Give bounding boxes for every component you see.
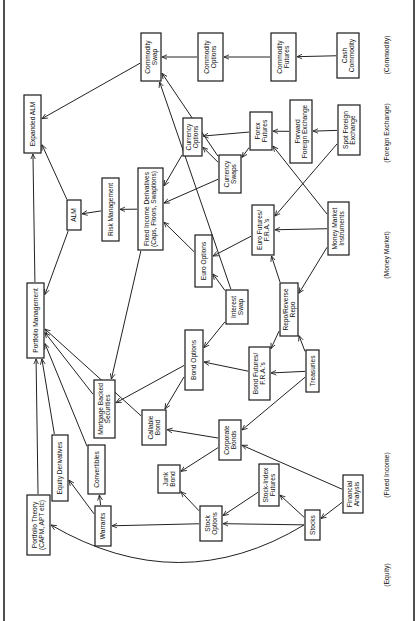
edge-money_market_instruments-to-euro_futures [275, 229, 327, 230]
edge-callable_bond-to-portfolio_management [45, 329, 141, 416]
svg-text:(Equity): (Equity) [383, 563, 391, 586]
node-risk-management: Risk Management [102, 178, 119, 241]
edge-warrants-to-convertibles [99, 495, 100, 505]
edge-stock_index_futures-to-stock_options [223, 492, 258, 515]
node-mortgage-backed: Mortgage BackedSecurities [94, 380, 115, 438]
node-money-market-instruments: Money MarketInstruments [328, 202, 349, 255]
edge-financial_analysis-to-stocks [321, 502, 342, 518]
edge-cash_commodity-to-commodity_futures [297, 56, 336, 57]
financial-instruments-diagram: Expanded ALMPortfolio ManagementPortfoli… [0, 0, 420, 621]
category-labels: (Equity)(Fixed Income)(Money Market)(For… [383, 36, 391, 587]
edge-bond_options-to-mortgage_backed [116, 365, 184, 402]
svg-text:Euro Options: Euro Options [200, 241, 208, 280]
edge-equity_derivatives-to-portfolio_management [42, 359, 54, 434]
edge-stocks-to-stock_index_futures [280, 495, 304, 517]
node-stock-options: StockOptions [200, 506, 222, 541]
edge-stock_options-to-warrants [112, 524, 199, 526]
svg-text:Treasuries: Treasuries [309, 355, 316, 387]
node-callable-bond: CallableBond [142, 410, 166, 445]
node-euro-options: Euro Options [195, 235, 212, 287]
node-treasuries: Treasuries [306, 350, 319, 392]
category-label-fixed-income: (Fixed Income) [383, 452, 391, 497]
edge-currency_options-to-fixed_income_derivatives [164, 155, 182, 186]
svg-text:(Commodity): (Commodity) [383, 36, 391, 75]
node-forward-fx: ForwardForeign Exchange [290, 100, 312, 163]
node-currency-options: CurrencyOptions [183, 118, 202, 156]
node-forex-futures: ForexFutures [250, 112, 272, 150]
edge-alm-to-portfolio_management [45, 231, 68, 294]
svg-text:(Money Market): (Money Market) [383, 231, 391, 279]
svg-text:Equity Derivatives: Equity Derivatives [56, 441, 64, 494]
svg-text:ALM: ALM [70, 208, 77, 222]
edge-alm-to-expanded_alm [42, 145, 67, 199]
node-expanded-alm: Expanded ALM [24, 95, 41, 153]
svg-text:JunkBond: JunkBond [162, 471, 176, 487]
node-repo: Repo/ReverseRepo [280, 283, 298, 336]
edge-spot_fx-to-forward_fx [313, 130, 337, 131]
svg-text:FinancialAnalysis: FinancialAnalysis [346, 480, 361, 507]
svg-text:Stocks: Stocks [309, 514, 316, 534]
svg-text:InterestSwap: InterestSwap [230, 296, 245, 318]
edge-money_market_instruments-to-repo [299, 247, 327, 293]
edge-corporate_bonds-to-callable_bond [167, 430, 218, 438]
svg-text:(Foreign Exchange): (Foreign Exchange) [383, 103, 391, 163]
category-label-money-market: (Money Market) [383, 231, 391, 279]
edge-currency_swaps-to-currency_options [203, 147, 218, 162]
edge-forex_futures-to-currency_swaps [242, 148, 249, 158]
svg-text:ForexFutures: ForexFutures [254, 119, 268, 142]
edge-treasuries-to-repo [299, 336, 305, 352]
edge-corporate_bonds-to-junk_bond [181, 448, 218, 472]
edge-interest_swap-to-bond_options [204, 322, 225, 348]
edge-stocks-to-stock_options [223, 524, 304, 525]
edge-portfolio_management-to-expanded_alm [33, 154, 35, 282]
edge-repo-to-euro_futures [272, 256, 281, 282]
edge-risk_management-to-alm [82, 211, 101, 214]
category-label-commodity: (Commodity) [383, 36, 391, 75]
category-label-equity: (Equity) [383, 563, 391, 586]
node-spot-fx: Spot ForeignExchange [338, 105, 360, 155]
node-bond-futures: Bond Futures/F.R.A.'s [249, 347, 270, 400]
edge-financial_analysis-to-corporate_bonds [242, 445, 342, 489]
edge-commodity_swap-to-expanded_alm [42, 63, 140, 118]
node-stocks: Stocks [305, 510, 320, 540]
nodes-layer: Expanded ALMPortfolio ManagementPortfoli… [24, 33, 363, 555]
svg-text:Risk Management: Risk Management [107, 183, 115, 236]
edge-portfolio_theory-to-portfolio_management [36, 359, 38, 494]
svg-text:Bond Options: Bond Options [190, 339, 198, 380]
svg-text:Convertibles: Convertibles [93, 450, 100, 487]
node-financial-analysis: FinancialAnalysis [343, 475, 363, 513]
node-warrants: Warrants [95, 506, 111, 546]
svg-text:Portfolio Management: Portfolio Management [32, 288, 40, 353]
edge-mortgage_backed-to-portfolio_management [45, 333, 93, 395]
svg-text:Expanded ALM: Expanded ALM [29, 102, 37, 147]
edge-forex_futures-to-currency_options [203, 132, 249, 136]
edge-euro_options-to-fixed_income_derivatives [164, 222, 194, 251]
edge-bond_futures-to-bond_options [204, 362, 248, 371]
node-stock-index-futures: Stock-IndexFutures [259, 464, 279, 506]
edge-treasuries-to-bond_futures [271, 371, 305, 373]
svg-text:Fixed Income Derivatives(Caps,: Fixed Income Derivatives(Caps, Floors, S… [143, 171, 158, 247]
svg-text:Warrants: Warrants [99, 512, 106, 539]
node-convertibles: Convertibles [88, 445, 105, 494]
edge-currency_swaps-to-fixed_income_derivatives [164, 179, 218, 203]
edge-bond_options-to-callable_bond [165, 377, 184, 409]
node-interest-swap: InterestSwap [226, 290, 248, 324]
svg-text:Portfolio Theory(CAPM, APT etc: Portfolio Theory(CAPM, APT etc) [31, 500, 46, 550]
edge-stock_options-to-junk_bond [181, 492, 199, 511]
node-portfolio-management: Portfolio Management [27, 283, 44, 358]
node-bond-options: Bond Options [185, 330, 203, 390]
svg-text:Money MarketInstruments: Money MarketInstruments [331, 207, 345, 249]
node-fixed-income-derivatives: Fixed Income Derivatives(Caps, Floors, S… [138, 168, 163, 250]
node-junk-bond: JunkBond [158, 465, 180, 493]
node-corporate-bonds: CorporateBonds [219, 420, 241, 460]
node-cash-commodity: CashCommodity [337, 33, 359, 78]
category-label-foreign-exchange: (Foreign Exchange) [383, 103, 391, 163]
node-portfolio-theory: Portfolio Theory(CAPM, APT etc) [27, 495, 50, 555]
svg-text:Spot ForeignExchange: Spot ForeignExchange [342, 111, 357, 149]
node-equity-derivatives: Equity Derivatives [52, 435, 68, 501]
edge-stocks-to-portfolio_theory [51, 525, 304, 563]
node-commodity-options: CommodityOptions [198, 33, 223, 81]
node-currency-swaps: CurrencySwaps [219, 155, 241, 193]
edge-repo-to-bond_futures [271, 331, 279, 348]
node-commodity-swap: CommoditySwap [141, 33, 161, 81]
